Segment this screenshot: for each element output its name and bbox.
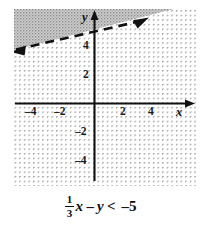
inequality-expression: 1 3 x – y < –5 bbox=[65, 194, 139, 219]
term-y: y bbox=[97, 199, 104, 214]
fraction-numerator: 1 bbox=[66, 194, 74, 206]
y-tick-minus-4: –4 bbox=[75, 155, 87, 167]
boundary-arrow-right bbox=[133, 18, 149, 29]
operator-less-than: < bbox=[105, 199, 119, 214]
x-tick-2: 2 bbox=[120, 106, 126, 118]
y-axis bbox=[91, 10, 99, 181]
x-tick-minus-2: –2 bbox=[54, 106, 66, 118]
x-tick-minus-4: –4 bbox=[25, 106, 37, 118]
operator-minus: – bbox=[84, 199, 96, 214]
x-axis-label: x bbox=[176, 106, 182, 119]
graph-svg bbox=[14, 9, 196, 186]
x-axis bbox=[15, 100, 195, 108]
plot-area: y x –4 –2 2 4 4 2 –2 –4 bbox=[14, 9, 196, 186]
fraction-denominator: 3 bbox=[66, 207, 74, 219]
x-tick-4: 4 bbox=[148, 106, 154, 118]
y-tick-4: 4 bbox=[83, 40, 89, 52]
inequality-caption: 1 3 x – y < –5 bbox=[0, 191, 204, 219]
y-axis-label: y bbox=[82, 11, 88, 24]
term-x: x bbox=[75, 199, 83, 214]
y-tick-2: 2 bbox=[83, 69, 89, 81]
linear-inequality-figure: y x –4 –2 2 4 4 2 –2 –4 1 3 x – y < –5 bbox=[0, 0, 204, 228]
right-hand-side: –5 bbox=[119, 199, 139, 214]
fraction-one-third: 1 3 bbox=[65, 194, 74, 219]
y-tick-minus-2: –2 bbox=[75, 126, 87, 138]
